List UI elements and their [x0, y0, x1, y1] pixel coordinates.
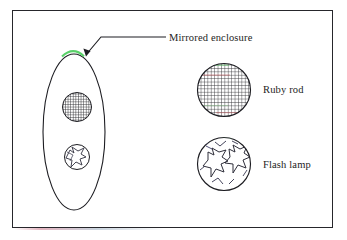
label-mirrored-enclosure: Mirrored enclosure	[169, 32, 252, 43]
label-ruby-rod: Ruby rod	[263, 84, 304, 95]
flash-lamp-cross-section	[65, 145, 90, 170]
scan-color-fringe	[14, 228, 164, 230]
ruby-rod-detail-circle	[196, 62, 254, 120]
flash-lamp-detail-circle	[198, 137, 251, 191]
figure-canvas: Mirrored enclosure Ruby rod Flash lamp	[0, 0, 347, 240]
mirrored-enclosure-ellipse	[43, 51, 105, 210]
mirrored-enclosure-leader	[83, 37, 166, 57]
label-flash-lamp: Flash lamp	[263, 159, 311, 170]
